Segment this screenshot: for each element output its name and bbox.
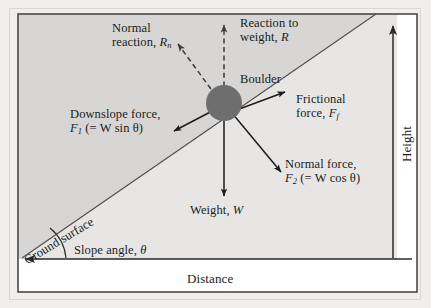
normal-force-symbol: F [285,171,293,185]
weight-label-text: Weight, [190,203,233,217]
normal-force-label: Normal force, F2 (= W cos θ) [285,158,360,188]
frictional-force-label: Frictional force, Ff [296,93,346,123]
slope-angle-symbol: θ [140,243,146,257]
frictional-force-label-line2: force, [296,106,329,120]
downslope-force-label: Downslope force, F1 (= W sin θ) [70,108,160,138]
slope-angle-text: Slope angle, [74,243,140,257]
downslope-force-expression: (= W sin θ) [82,121,143,135]
normal-reaction-subscript: n [167,40,171,50]
slope-angle-label: Slope angle, θ [74,244,146,258]
boulder-circle [206,85,242,121]
normal-force-expression: (= W cos θ) [297,171,360,185]
reaction-to-weight-label-line2: weight, [240,30,281,44]
downslope-force-label-line1: Downslope force, [70,107,160,121]
frictional-force-subscript: f [336,111,338,121]
boulder-label: Boulder [240,73,281,87]
normal-reaction-label-line2: reaction, [112,35,160,49]
figure-page: Normal reaction, Rn Reaction to weight, … [0,0,431,308]
reaction-to-weight-label: Reaction to weight, R [240,17,298,44]
normal-reaction-label: Normal reaction, Rn [112,22,172,52]
weight-symbol: W [233,203,244,217]
reaction-to-weight-label-line1: Reaction to [240,16,298,30]
height-axis-label: Height [400,126,414,162]
free-body-diagram-svg [0,0,431,308]
normal-reaction-label-line1: Normal [112,21,151,35]
normal-force-label-line1: Normal force, [285,157,356,171]
reaction-to-weight-symbol: R [281,30,289,44]
distance-axis-label: Distance [187,272,233,286]
weight-label: Weight, W [190,204,243,218]
downslope-force-symbol: F [70,121,78,135]
frictional-force-label-line1: Frictional [296,92,346,106]
